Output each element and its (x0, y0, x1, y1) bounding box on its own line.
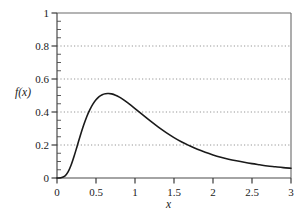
xtick-label-1.5: 1.5 (164, 187, 184, 198)
y-axis-major-ticks (52, 13, 58, 178)
y-axis-title: f(x) (15, 87, 31, 99)
ytick-label-0.6: 0.6 (35, 74, 49, 85)
x-axis-title: x (166, 199, 171, 211)
xtick-label-3: 3 (281, 187, 301, 198)
xtick-label-2.5: 2.5 (242, 187, 262, 198)
plot-frame (57, 13, 291, 178)
ytick-label-0.8: 0.8 (35, 41, 49, 52)
ytick-label-0.2: 0.2 (35, 140, 49, 151)
ytick-label-0: 0 (44, 173, 50, 184)
ytick-label-0.4: 0.4 (35, 107, 49, 118)
xtick-label-0.5: 0.5 (86, 187, 106, 198)
xtick-label-1: 1 (125, 187, 145, 198)
gridlines (57, 46, 291, 145)
xtick-label-0: 0 (47, 187, 67, 198)
x-axis-major-ticks (57, 178, 291, 184)
chart-figure: 1 0.8 0.6 0.4 0.2 0 0 0.5 1 1.5 2 2.5 3 … (0, 0, 303, 215)
xtick-label-2: 2 (203, 187, 223, 198)
ytick-label-1: 1 (44, 8, 50, 19)
data-series-line (57, 94, 291, 179)
y-axis-title-paren-close: ) (27, 86, 31, 98)
